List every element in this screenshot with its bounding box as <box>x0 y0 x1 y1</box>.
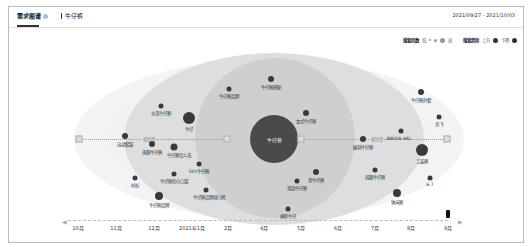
node[interactable] <box>227 87 232 92</box>
small-dot-icon <box>429 39 431 41</box>
node[interactable] <box>437 115 442 120</box>
active-tab-indicator <box>17 25 39 27</box>
node[interactable] <box>171 144 178 151</box>
trend-up-dot-icon <box>493 38 498 43</box>
bubble-chart: 牛仔裤 相关性 相关性 牛仔裤搭配 牛仔裤品牌 女式牛仔裤 水洗牛仔裤 牛仔 运… <box>9 47 523 217</box>
node[interactable] <box>373 168 378 173</box>
axis-right-label: 相关性 <box>370 136 384 142</box>
node[interactable] <box>286 207 291 212</box>
demand-graph-panel: 需求图谱 牛仔裤 2021/09/27 - 2021/10/03 搜索指数 低 … <box>8 6 524 243</box>
node[interactable] <box>399 129 404 134</box>
node[interactable] <box>393 189 401 197</box>
center-label: 牛仔裤 <box>267 136 282 143</box>
axis-left-end <box>76 136 83 143</box>
medium-dot-icon <box>434 39 437 42</box>
keyword-label: 牛仔裤 <box>61 11 83 20</box>
separator <box>61 13 62 19</box>
axis-left-inner <box>224 136 231 143</box>
node[interactable] <box>183 112 195 124</box>
node[interactable] <box>155 192 163 200</box>
timeline-slider[interactable]: ◀ 10月 11月 12月 2021年1月 2月 4月 5月 6月 7月 8月 … <box>68 218 448 232</box>
panel-header: 需求图谱 牛仔裤 2021/09/27 - 2021/10/03 <box>9 7 523 28</box>
timeline-next-arrow-icon[interactable]: ▶ <box>458 218 463 225</box>
axis-right-end <box>444 136 451 143</box>
timeline-track[interactable] <box>68 220 448 221</box>
node[interactable] <box>360 136 366 142</box>
axis-right-inner <box>298 136 305 143</box>
tab-demand-graph[interactable]: 需求图谱 <box>17 11 48 20</box>
node[interactable] <box>172 172 177 177</box>
node[interactable] <box>295 179 300 184</box>
legend: 搜索指数 低 高 搜索趋势 上升 下降 <box>403 37 517 43</box>
node[interactable] <box>268 76 274 82</box>
node[interactable] <box>428 176 433 181</box>
legend-search-trend-title: 搜索趋势 <box>463 37 479 43</box>
node[interactable] <box>303 110 309 116</box>
node[interactable] <box>149 141 155 147</box>
node[interactable] <box>416 144 428 156</box>
trend-down-dot-icon <box>512 38 517 43</box>
timeline-prev-arrow-icon[interactable]: ◀ <box>62 218 67 225</box>
node[interactable] <box>122 133 128 139</box>
info-icon[interactable] <box>43 14 48 19</box>
timeline-handle[interactable] <box>446 210 450 218</box>
large-dot-icon <box>440 38 445 43</box>
node[interactable] <box>204 188 209 193</box>
node[interactable] <box>159 104 164 109</box>
node[interactable] <box>197 162 202 167</box>
date-range: 2021/09/27 - 2021/10/03 <box>452 12 515 18</box>
node[interactable] <box>133 176 138 181</box>
legend-search-index-title: 搜索指数 <box>403 37 419 43</box>
node[interactable] <box>418 89 424 95</box>
node[interactable] <box>313 169 319 175</box>
